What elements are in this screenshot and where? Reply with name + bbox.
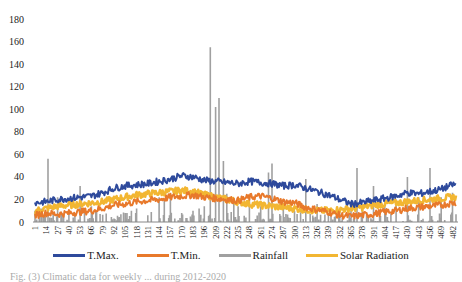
- x-tick-label: 443: [414, 226, 424, 239]
- x-tick-label: 157: [165, 226, 175, 239]
- y-tick-label: 160: [9, 36, 24, 47]
- x-tick-label: 339: [323, 226, 333, 239]
- x-tick-label: 131: [143, 226, 153, 239]
- x-tick-label: 248: [244, 226, 254, 239]
- series-lines: [35, 173, 456, 219]
- legend: T.Max. T.Min. Rainfall Solar Radiation: [0, 249, 462, 261]
- legend-label: Rainfall: [253, 249, 288, 261]
- tmax-swatch-icon: [53, 254, 85, 257]
- x-tick-label: 482: [448, 226, 458, 239]
- x-tick-label: 430: [402, 226, 412, 239]
- x-tick-label: 183: [188, 226, 198, 239]
- x-tick-label: 53: [75, 226, 85, 235]
- x-tick-label: 378: [357, 226, 367, 239]
- y-tick-label: 20: [14, 194, 24, 205]
- y-axis: 020406080100120140160180: [9, 14, 24, 228]
- tmin-swatch-icon: [137, 254, 169, 257]
- chart: 020406080100120140160180 114274053667992…: [0, 0, 462, 250]
- x-tick-label: 14: [41, 225, 51, 234]
- y-tick-label: 100: [9, 104, 24, 115]
- y-tick-label: 120: [9, 81, 24, 92]
- x-tick-label: 404: [380, 225, 390, 239]
- legend-item-rainfall: Rainfall: [219, 249, 288, 261]
- y-tick-label: 40: [14, 171, 24, 182]
- x-axis: 1142740536679921051181311441571701831962…: [30, 225, 458, 239]
- x-tick-label: 391: [369, 226, 379, 239]
- legend-item-tmax: T.Max.: [53, 249, 119, 261]
- y-tick-label: 80: [14, 126, 24, 137]
- y-tick-label: 140: [9, 59, 24, 70]
- y-tick-label: 0: [19, 217, 24, 228]
- legend-item-tmin: T.Min.: [137, 249, 201, 261]
- x-tick-label: 261: [256, 226, 266, 239]
- x-tick-label: 27: [53, 226, 63, 235]
- x-tick-label: 170: [177, 226, 187, 239]
- legend-label: Solar Radiation: [340, 249, 409, 261]
- x-tick-label: 287: [278, 226, 288, 239]
- x-tick-label: 144: [154, 225, 164, 239]
- figure-caption: Fig. (3) Climatic data for weekly ... du…: [10, 271, 226, 282]
- x-tick-label: 300: [290, 226, 300, 239]
- x-tick-label: 66: [86, 226, 96, 235]
- x-tick-label: 326: [312, 226, 322, 239]
- rainfall-swatch-icon: [219, 254, 251, 257]
- x-tick-label: 222: [222, 226, 232, 239]
- x-tick-label: 79: [98, 226, 108, 235]
- x-tick-label: 105: [120, 226, 130, 239]
- legend-label: T.Min.: [171, 249, 201, 261]
- x-tick-label: 274: [267, 225, 277, 239]
- x-tick-label: 1: [30, 226, 40, 230]
- x-tick-label: 92: [109, 226, 119, 235]
- y-tick-label: 60: [14, 149, 24, 160]
- x-tick-label: 352: [335, 226, 345, 239]
- x-tick-label: 235: [233, 226, 243, 239]
- legend-item-solar: Solar Radiation: [306, 249, 409, 261]
- x-tick-label: 209: [211, 226, 221, 239]
- x-tick-label: 456: [425, 226, 435, 239]
- y-tick-label: 180: [9, 14, 24, 25]
- x-tick-label: 365: [346, 226, 356, 239]
- solar-swatch-icon: [306, 254, 338, 257]
- legend-label: T.Max.: [87, 249, 119, 261]
- x-tick-label: 40: [64, 226, 74, 235]
- x-tick-label: 196: [199, 226, 209, 239]
- x-tick-label: 469: [436, 226, 446, 239]
- x-tick-label: 118: [132, 226, 142, 238]
- x-tick-label: 313: [301, 226, 311, 239]
- x-tick-label: 417: [391, 226, 401, 239]
